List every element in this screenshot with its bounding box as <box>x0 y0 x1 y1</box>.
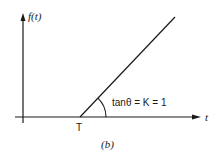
y-axis-arrowhead-icon <box>21 13 26 21</box>
x-axis-arrowhead-icon <box>192 115 201 120</box>
figure-caption: (b) <box>101 138 114 151</box>
angle-arc <box>98 98 106 117</box>
y-axis-label: f(t) <box>28 10 42 23</box>
slope-annotation: tanθ = K = 1 <box>112 97 167 108</box>
x-axis-label: t <box>205 111 209 123</box>
ramp-function-diagram: f(t) t T tanθ = K = 1 (b) <box>0 0 218 158</box>
point-t-label: T <box>76 122 82 133</box>
